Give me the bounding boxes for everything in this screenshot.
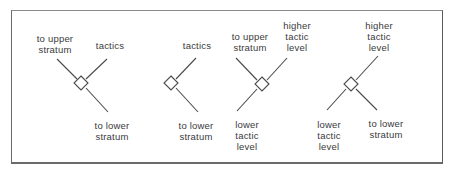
node-diamond-icon: [164, 76, 178, 90]
diagram-4-connectors: [327, 56, 378, 110]
d3-label-higher-tactic-level: higher tactic level: [274, 20, 320, 53]
d1-label-to-lower-stratum: to lower stratum: [84, 120, 140, 142]
node-diamond-icon: [255, 77, 269, 91]
d3-label-to-upper-stratum: to upper stratum: [222, 31, 278, 53]
d1-label-tactics: tactics: [88, 40, 132, 51]
d2-label-tactics: tactics: [175, 40, 219, 51]
node-diamond-icon: [344, 77, 358, 91]
d1-label-to-upper-stratum: to upper stratum: [27, 33, 83, 55]
d4-label-to-lower-stratum: to lower stratum: [358, 118, 414, 140]
d4-label-lower-tactic-level: lower tactic level: [306, 119, 352, 152]
d2-label-to-lower-stratum: to lower stratum: [168, 120, 224, 142]
diagram-2-connectors: [164, 58, 198, 112]
d4-label-higher-tactic-level: higher tactic level: [356, 20, 402, 53]
d3-label-lower-tactic-level: lower tactic level: [224, 119, 270, 152]
diagram-3-connectors: [236, 58, 287, 111]
diagram-1-connectors: [57, 59, 108, 112]
